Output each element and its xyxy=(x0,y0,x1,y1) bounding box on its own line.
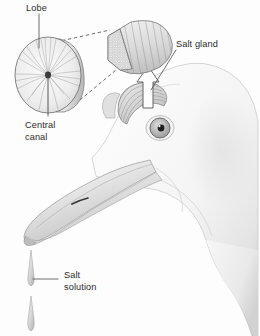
head-shading xyxy=(186,92,258,208)
label-salt-solution-line1: Salt xyxy=(64,270,81,280)
label-lobe: Lobe xyxy=(26,3,47,13)
bird-eye xyxy=(146,116,174,141)
eye-highlight xyxy=(158,125,160,127)
label-central-canal-line1: Central xyxy=(25,120,55,130)
lobe-cross-section xyxy=(14,37,84,113)
label-central-canal-line2: canal xyxy=(25,132,47,142)
salt-gland-figure: Lobe Central canal Salt gland Salt solut… xyxy=(0,0,260,336)
label-salt-solution-line2: solution xyxy=(64,282,96,292)
central-canal xyxy=(45,72,51,79)
label-salt-gland: Salt gland xyxy=(176,39,218,49)
